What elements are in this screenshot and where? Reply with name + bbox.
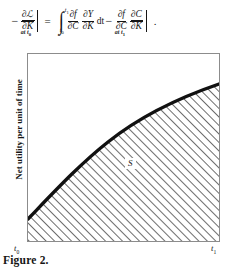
integrand-2-numerator: ∂Y	[82, 10, 94, 21]
rhs-minus-sign: −	[104, 14, 114, 29]
differential-text: dt	[97, 16, 104, 26]
integrand-1-denominator: ∂C	[67, 22, 80, 32]
integral-symbol-group: t1 ∫ t0	[58, 8, 65, 34]
region-label-S: S	[125, 158, 136, 169]
x-tick-label-t1: t1	[211, 244, 216, 255]
rhs-fraction-2: ∂C ∂K	[129, 10, 144, 31]
lhs-term: ∂ℒ ∂K at t0	[20, 10, 40, 32]
plot-frame: S	[27, 53, 220, 242]
lhs-evaluation-bar	[37, 10, 38, 32]
equation-block: − ∂ℒ ∂K at t0 = t1 ∫ t0 ∂f ∂C ∂Y ∂K dt −	[0, 0, 234, 52]
shaded-region-S	[28, 84, 219, 241]
integrand-fraction-2: ∂Y ∂K	[81, 10, 96, 31]
lhs-minus-sign: −	[10, 14, 20, 29]
integral-lower-sub: 0	[61, 30, 63, 35]
equation-period: .	[148, 15, 157, 27]
y-axis-label: Net utility per unit of time	[15, 60, 24, 200]
rhs-term: ∂f ∂C ∂C ∂K at t1	[114, 10, 148, 32]
rhs-2-denominator: ∂K	[130, 22, 143, 32]
lhs-eval-text: at t	[21, 29, 29, 35]
tick-t1-sub: 1	[213, 249, 216, 255]
integrand-2-denominator: ∂K	[82, 22, 95, 32]
equals-sign: =	[39, 15, 55, 27]
integral-upper-sub: 1	[66, 10, 68, 15]
rhs-evaluation-label: at t1	[115, 29, 125, 37]
rhs-eval-text: at t	[115, 29, 123, 35]
integral-upper-limit: t1	[65, 7, 69, 15]
differential-dt: dt	[96, 16, 104, 26]
rhs-eval-sub: 1	[123, 32, 125, 37]
figure-block: Net utility per unit of time S t0 t1 Fig…	[0, 52, 234, 270]
equation-row: − ∂ℒ ∂K at t0 = t1 ∫ t0 ∂f ∂C ∂Y ∂K dt −	[10, 8, 157, 34]
plot-area	[28, 54, 219, 241]
rhs-evaluation-bar	[146, 10, 147, 32]
integrand-1-numerator: ∂f	[68, 10, 77, 21]
integral-lower-limit: t0	[60, 27, 64, 35]
figure-caption: Figure 2.	[3, 255, 49, 267]
rhs-1-numerator: ∂f	[117, 10, 126, 21]
lhs-evaluation-label: at t0	[21, 29, 31, 37]
lhs-eval-sub: 0	[29, 32, 31, 37]
